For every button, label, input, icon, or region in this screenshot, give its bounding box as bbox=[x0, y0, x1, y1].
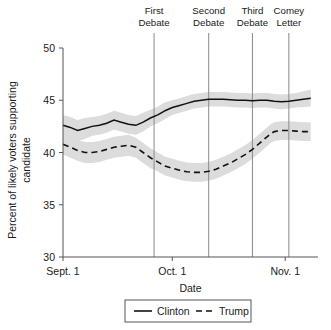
event-label-third-debate: Debate bbox=[237, 17, 268, 28]
event-annotation-labels: FirstDebateSecondDebateThirdDebateComeyL… bbox=[138, 5, 304, 28]
event-label-comey-letter: Comey bbox=[274, 5, 305, 16]
x-axis-ticks: Sept. 1Oct. 1Nov. 1 bbox=[46, 257, 300, 277]
poll-trend-line-chart: 3035404550 Sept. 1Oct. 1Nov. 1 FirstDeba… bbox=[0, 0, 331, 330]
y-tick-label: 40 bbox=[43, 147, 55, 159]
event-label-comey-letter: Letter bbox=[276, 17, 302, 28]
chart-legend: Clinton Trump bbox=[125, 300, 251, 322]
y-tick-label: 50 bbox=[43, 42, 55, 54]
x-tick-label: Oct. 1 bbox=[158, 265, 186, 277]
y-axis-title-line1: Percent of likely voters supporting bbox=[6, 81, 18, 239]
x-tick-label: Nov. 1 bbox=[270, 265, 300, 277]
event-label-third-debate: Third bbox=[241, 5, 263, 16]
event-label-first-debate: Debate bbox=[138, 17, 169, 28]
y-axis-ticks: 3035404550 bbox=[43, 42, 63, 263]
y-tick-label: 30 bbox=[43, 251, 55, 263]
y-axis-title-line2: candidate bbox=[20, 137, 32, 183]
chart-container: 3035404550 Sept. 1Oct. 1Nov. 1 FirstDeba… bbox=[0, 0, 331, 330]
event-marker-lines bbox=[154, 33, 289, 257]
x-axis-title: Date bbox=[179, 282, 201, 294]
x-tick-label: Sept. 1 bbox=[46, 265, 79, 277]
event-label-second-debate: Debate bbox=[193, 17, 224, 28]
event-label-second-debate: Second bbox=[192, 5, 225, 16]
y-tick-label: 45 bbox=[43, 94, 55, 106]
y-tick-label: 35 bbox=[43, 199, 55, 211]
legend-label-clinton: Clinton bbox=[157, 305, 190, 317]
legend-label-trump: Trump bbox=[219, 305, 249, 317]
event-label-first-debate: First bbox=[145, 5, 164, 16]
